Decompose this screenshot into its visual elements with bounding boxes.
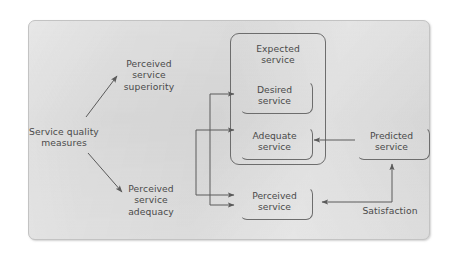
label-perceived-service: Perceived service <box>238 190 311 213</box>
label-adequate-service: Adequate service <box>238 130 311 153</box>
label-perceived-service-superiority: Perceived service superiority <box>112 58 186 92</box>
label-service-quality-measures: Service quality measures <box>16 126 112 149</box>
connector-adequate-to-perceived <box>196 130 234 195</box>
diagram-screenshot: Service quality measures Perceived servi… <box>0 0 452 257</box>
label-expected-service: Expected service <box>232 43 324 66</box>
label-perceived-service-adequacy: Perceived service adequacy <box>114 183 188 217</box>
label-predicted-service: Predicted service <box>355 130 428 153</box>
label-desired-service: Desired service <box>238 84 311 107</box>
connector-desired-to-perceived <box>210 94 234 205</box>
label-satisfaction: Satisfaction <box>351 205 429 216</box>
